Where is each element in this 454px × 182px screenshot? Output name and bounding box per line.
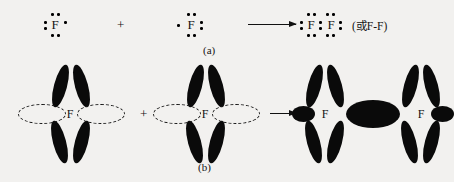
electron-dot	[187, 34, 190, 37]
lewis-structure-f2-molecule: F F	[296, 8, 350, 42]
electron-dot	[57, 13, 60, 16]
electron-dot	[44, 27, 47, 30]
unpaired-electron-dot	[64, 21, 67, 24]
electron-dot	[187, 13, 190, 16]
electron-dot	[193, 13, 196, 16]
electron-dot	[332, 13, 335, 16]
electron-dot	[332, 34, 335, 37]
element-symbol-right: F	[396, 62, 446, 166]
caption-part-b: (b)	[198, 161, 211, 173]
lewis-structure-fluorine-2: F	[168, 8, 214, 42]
electron-dot	[200, 27, 203, 30]
element-symbol-left: F	[300, 62, 350, 166]
unpaired-electron-dot	[177, 24, 180, 27]
plus-operator-b: +	[140, 107, 147, 120]
sigma-bond-overlap-lobe	[346, 100, 400, 128]
element-symbol-right: F	[318, 8, 344, 42]
shared-electron-dot	[319, 27, 322, 30]
shared-electron-dot	[319, 21, 322, 24]
electron-dot	[51, 13, 54, 16]
element-symbol: F	[168, 8, 214, 42]
orbital-diagram-fluorine-1: F	[22, 62, 118, 166]
element-symbol: F	[32, 8, 78, 42]
lewis-structure-fluorine-1: F	[32, 8, 78, 42]
electron-dot	[313, 13, 316, 16]
element-symbol: F	[157, 62, 253, 166]
electron-dot	[307, 34, 310, 37]
electron-dot	[339, 27, 342, 30]
element-symbol: F	[22, 62, 118, 166]
plus-operator-a: +	[117, 18, 124, 31]
electron-dot	[300, 27, 303, 30]
orbital-diagram-fluorine-2: F	[157, 62, 253, 166]
electron-dot	[51, 34, 54, 37]
product-alternate-notation: (或F-F)	[352, 17, 387, 33]
electron-dot	[300, 21, 303, 24]
orbital-diagram-f2-molecule: F F	[300, 62, 446, 166]
electron-dot	[326, 34, 329, 37]
electron-dot	[326, 13, 329, 16]
electron-dot	[57, 34, 60, 37]
electron-dot	[339, 21, 342, 24]
electron-dot	[193, 34, 196, 37]
electron-dot	[44, 21, 47, 24]
electron-dot	[313, 34, 316, 37]
reaction-arrow-a	[248, 24, 296, 25]
electron-dot	[200, 21, 203, 24]
caption-part-a: (a)	[203, 44, 215, 56]
electron-dot	[307, 13, 310, 16]
